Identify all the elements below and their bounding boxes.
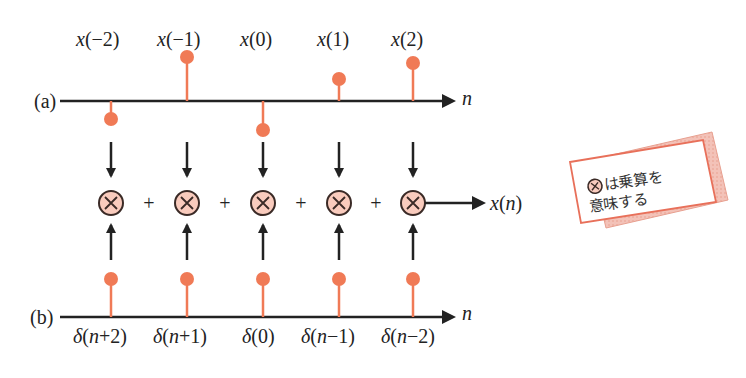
multiplier-icon-1 bbox=[175, 191, 199, 215]
panel-a: (a) n x(−2) x(−1) x(0) x(1) x(2) bbox=[34, 28, 472, 137]
sample-b-stem-3 bbox=[332, 272, 346, 317]
sample-b-label-2: δ(0) bbox=[242, 325, 275, 348]
down-arrows bbox=[111, 142, 413, 176]
output-arrow-head-icon bbox=[472, 196, 486, 210]
panel-b: (b) n δ(n+2) δ(n+1) δ(0) δ(n−1) δ(n−2) bbox=[30, 272, 472, 348]
sample-a-label-0: x(−2) bbox=[75, 28, 120, 51]
sample-b-label-1: δ(n+1) bbox=[153, 325, 207, 348]
note-card: は乗算を 意味する bbox=[570, 132, 728, 228]
sample-a-label-4: x(2) bbox=[390, 28, 423, 51]
multiplier-icon-2 bbox=[251, 191, 275, 215]
sample-a-stem-3 bbox=[332, 72, 346, 101]
sample-b-stem-1 bbox=[180, 272, 194, 317]
output-label: x(n) bbox=[489, 192, 522, 215]
up-arrows bbox=[111, 225, 413, 260]
sample-b-label-4: δ(n−2) bbox=[381, 325, 435, 348]
sample-a-label-3: x(1) bbox=[316, 28, 349, 51]
panel-a-axis-arrow-icon bbox=[442, 94, 456, 108]
sample-a-label-2: x(0) bbox=[239, 28, 272, 51]
impulse-decomposition-diagram: (a) n x(−2) x(−1) x(0) x(1) x(2) bbox=[0, 0, 746, 378]
sample-b-stem-0 bbox=[104, 272, 118, 317]
sample-a-label-1: x(−1) bbox=[156, 28, 201, 51]
plus-sign-0: + bbox=[143, 192, 154, 214]
sample-b-label-3: δ(n−1) bbox=[301, 325, 355, 348]
multiplier-icon-3 bbox=[327, 191, 351, 215]
panel-a-axis-label: n bbox=[462, 87, 472, 109]
multiplier-row: + + + + x(n) bbox=[99, 142, 522, 260]
panel-b-label: (b) bbox=[30, 306, 53, 329]
sample-a-stem-1 bbox=[180, 50, 194, 101]
sample-b-stem-2 bbox=[256, 272, 270, 317]
panel-b-axis-label: n bbox=[462, 302, 472, 324]
panel-b-axis-arrow-icon bbox=[442, 310, 456, 324]
sample-b-stem-4 bbox=[406, 272, 420, 317]
sample-a-stem-2 bbox=[256, 101, 270, 137]
sample-a-stem-0 bbox=[104, 101, 118, 126]
sample-a-stem-4 bbox=[406, 56, 420, 101]
plus-sign-2: + bbox=[295, 192, 306, 214]
multiplier-icon-4 bbox=[401, 191, 425, 215]
sample-b-label-0: δ(n+2) bbox=[73, 325, 127, 348]
panel-a-label: (a) bbox=[34, 90, 56, 113]
plus-sign-3: + bbox=[370, 192, 381, 214]
plus-sign-1: + bbox=[219, 192, 230, 214]
multiplier-icon-0 bbox=[99, 191, 123, 215]
